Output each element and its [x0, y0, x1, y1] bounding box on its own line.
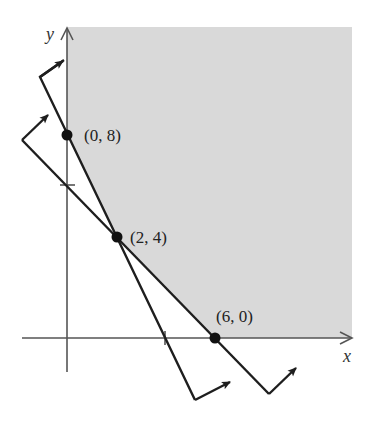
x-axis-label: x: [342, 346, 351, 366]
direction-arrow-1-bottom: [195, 382, 230, 400]
feasible-region: [67, 27, 352, 338]
label-2-4: (2, 4): [130, 228, 167, 247]
direction-arrow-2-bottom: [269, 368, 296, 394]
vertex-6-0: [210, 333, 221, 344]
label-0-8: (0, 8): [84, 126, 121, 145]
y-axis-label: y: [44, 24, 54, 44]
label-6-0: (6, 0): [216, 307, 253, 326]
feasible-region-graph: (0, 8) (2, 4) (6, 0) y x: [0, 0, 370, 430]
vertex-2-4: [112, 232, 123, 243]
direction-arrow-2-top: [22, 115, 48, 140]
vertex-0-8: [62, 130, 73, 141]
